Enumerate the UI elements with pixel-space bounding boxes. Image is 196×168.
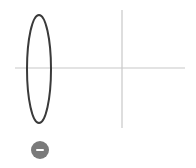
remove-lens-button[interactable] [31,141,49,159]
minus-icon [36,149,44,151]
lens[interactable] [27,15,51,123]
optics-diagram [0,0,196,168]
